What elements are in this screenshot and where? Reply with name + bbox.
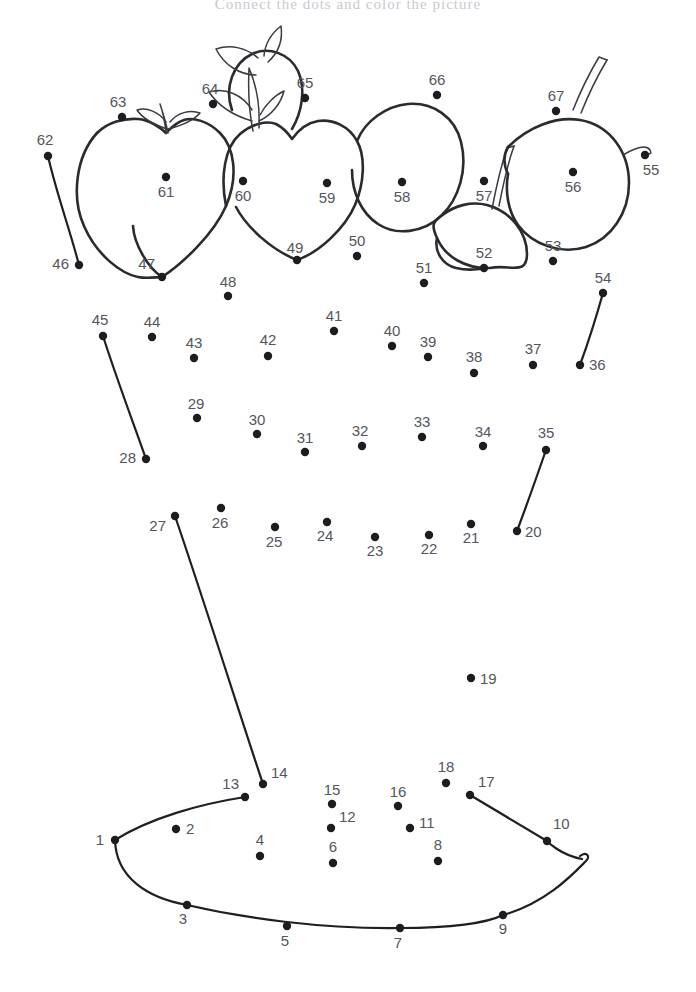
dot-20[interactable] <box>513 527 521 535</box>
dot-12[interactable] <box>327 824 335 832</box>
dot-label-24: 24 <box>317 527 334 544</box>
dot-54[interactable] <box>599 289 607 297</box>
dot-64[interactable] <box>209 100 217 108</box>
dot-40[interactable] <box>388 342 396 350</box>
dot-label-22: 22 <box>421 540 438 557</box>
dot-24[interactable] <box>323 518 331 526</box>
dot-37[interactable] <box>529 361 537 369</box>
dot-label-30: 30 <box>249 411 266 428</box>
dot-58[interactable] <box>398 178 406 186</box>
dot-2[interactable] <box>172 825 180 833</box>
dot-label-19: 19 <box>480 670 497 687</box>
dot-26[interactable] <box>217 504 225 512</box>
segment-35-to-20 <box>517 450 546 531</box>
dot-label-47: 47 <box>138 255 155 272</box>
apple-top-small-leaf <box>216 47 258 75</box>
dot-38[interactable] <box>470 369 478 377</box>
dot-28[interactable] <box>142 455 150 463</box>
connect-the-dots-canvas: 1234567891011121314151617181920212223242… <box>0 0 696 992</box>
dot-36[interactable] <box>576 361 584 369</box>
dot-label-27: 27 <box>149 517 166 534</box>
dot-label-65: 65 <box>297 74 314 91</box>
dot-60[interactable] <box>239 177 247 185</box>
strawberry-mid-stem <box>249 68 260 131</box>
dot-6[interactable] <box>329 859 337 867</box>
dot-48[interactable] <box>224 292 232 300</box>
dot-label-61: 61 <box>158 183 175 200</box>
dot-label-21: 21 <box>463 529 480 546</box>
dot-61[interactable] <box>162 173 170 181</box>
segment-13-to-1 <box>115 797 245 840</box>
dot-4[interactable] <box>256 852 264 860</box>
dot-33[interactable] <box>418 433 426 441</box>
dot-5[interactable] <box>283 922 291 930</box>
dot-41[interactable] <box>330 327 338 335</box>
dot-3[interactable] <box>183 901 191 909</box>
dot-label-32: 32 <box>352 422 369 439</box>
dot-17[interactable] <box>466 791 474 799</box>
dot-55[interactable] <box>641 151 649 159</box>
dot-10[interactable] <box>543 837 551 845</box>
dot-25[interactable] <box>271 523 279 531</box>
dot-44[interactable] <box>148 333 156 341</box>
dot-1[interactable] <box>111 836 119 844</box>
dot-53[interactable] <box>549 257 557 265</box>
segment-1-to-9 <box>115 840 503 928</box>
dot-13[interactable] <box>241 793 249 801</box>
dot-63[interactable] <box>118 113 126 121</box>
dot-42[interactable] <box>264 352 272 360</box>
dot-label-37: 37 <box>525 340 542 357</box>
puzzle-page: Connect the dots and color the picture 1… <box>0 0 696 992</box>
dot-39[interactable] <box>424 353 432 361</box>
dot-49[interactable] <box>293 256 301 264</box>
dot-22[interactable] <box>425 531 433 539</box>
dot-label-1: 1 <box>96 831 104 848</box>
segment-45-to-28 <box>103 336 146 459</box>
dot-52[interactable] <box>480 264 488 272</box>
dot-label-26: 26 <box>212 514 229 531</box>
dot-label-17: 17 <box>478 773 495 790</box>
dot-35[interactable] <box>542 446 550 454</box>
dot-7[interactable] <box>396 924 404 932</box>
dot-label-59: 59 <box>319 189 336 206</box>
dot-66[interactable] <box>433 91 441 99</box>
dot-label-7: 7 <box>394 934 402 951</box>
dot-11[interactable] <box>406 824 414 832</box>
dot-51[interactable] <box>420 279 428 287</box>
dot-31[interactable] <box>301 448 309 456</box>
apple-top-small-leaf2 <box>264 26 281 62</box>
dot-label-67: 67 <box>548 87 565 104</box>
dot-23[interactable] <box>371 533 379 541</box>
dot-65[interactable] <box>301 94 309 102</box>
dot-62[interactable] <box>44 152 52 160</box>
dot-34[interactable] <box>479 442 487 450</box>
dot-45[interactable] <box>99 332 107 340</box>
dot-14[interactable] <box>259 780 267 788</box>
dot-21[interactable] <box>467 520 475 528</box>
dot-32[interactable] <box>358 442 366 450</box>
dot-15[interactable] <box>328 800 336 808</box>
apple-56-stem-in <box>573 57 607 110</box>
dot-label-43: 43 <box>186 334 203 351</box>
dot-27[interactable] <box>171 512 179 520</box>
dot-label-20: 20 <box>525 523 542 540</box>
dot-16[interactable] <box>394 802 402 810</box>
dot-46[interactable] <box>75 261 83 269</box>
dot-label-64: 64 <box>202 80 219 97</box>
dot-label-25: 25 <box>266 533 283 550</box>
dot-50[interactable] <box>353 252 361 260</box>
dot-59[interactable] <box>323 179 331 187</box>
dot-9[interactable] <box>499 911 507 919</box>
dot-8[interactable] <box>434 857 442 865</box>
dot-57[interactable] <box>480 177 488 185</box>
dot-30[interactable] <box>253 430 261 438</box>
dot-18[interactable] <box>442 779 450 787</box>
dot-43[interactable] <box>190 354 198 362</box>
dot-29[interactable] <box>193 414 201 422</box>
dot-label-28: 28 <box>119 449 136 466</box>
dot-19[interactable] <box>467 674 475 682</box>
dot-67[interactable] <box>552 107 560 115</box>
dot-47[interactable] <box>158 273 166 281</box>
dot-label-8: 8 <box>434 836 442 853</box>
dot-56[interactable] <box>569 168 577 176</box>
